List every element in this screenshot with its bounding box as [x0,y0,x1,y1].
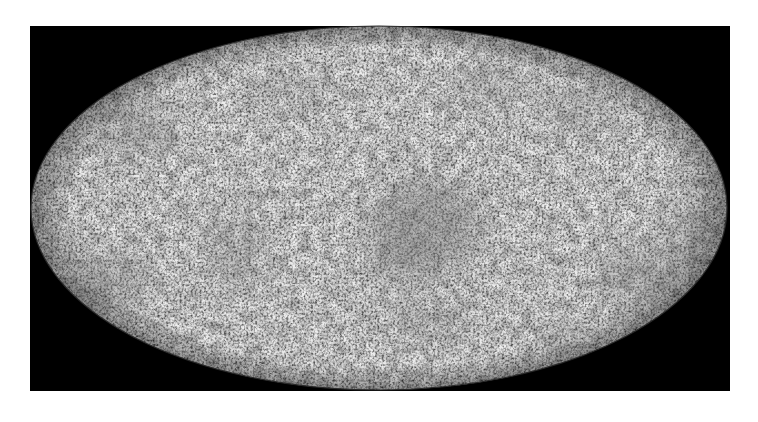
figure-canvas [0,0,758,422]
sky-map [0,0,758,422]
